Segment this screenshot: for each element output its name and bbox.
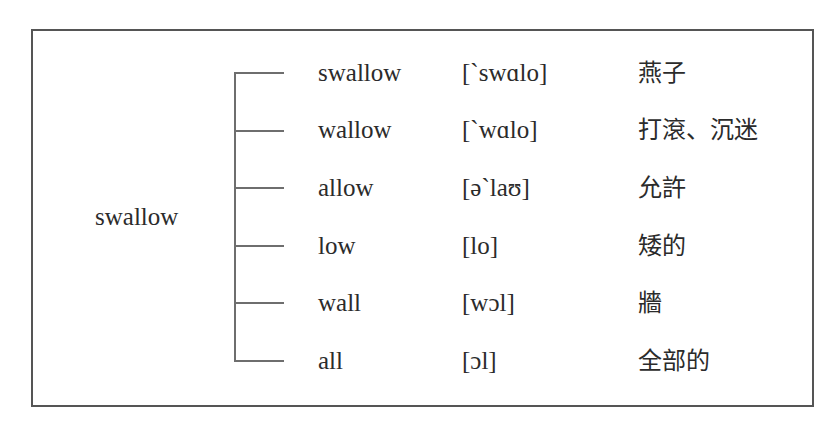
chinese-meaning: 允許 (638, 172, 686, 204)
derived-word: all (318, 345, 343, 377)
tree-branch-line (234, 360, 284, 362)
derived-word: low (318, 230, 356, 262)
chinese-meaning: 牆 (638, 287, 662, 319)
chinese-meaning: 打滾、沉迷 (638, 114, 758, 146)
derived-word: wall (318, 287, 361, 319)
root-word: swallow (95, 201, 178, 233)
phonetic-transcription: [ə`laʊ] (462, 172, 530, 204)
tree-branch-line (234, 72, 284, 74)
derived-word: allow (318, 172, 374, 204)
tree-branch-line (234, 187, 284, 189)
phonetic-transcription: [ɔl] (462, 345, 497, 377)
tree-branch-line (234, 130, 284, 132)
chinese-meaning: 矮的 (638, 230, 686, 262)
phonetic-transcription: [`wɑlo] (462, 114, 538, 146)
chinese-meaning: 全部的 (638, 345, 710, 377)
derived-word: swallow (318, 57, 401, 89)
tree-trunk-line (234, 73, 236, 362)
chinese-meaning: 燕子 (638, 57, 686, 89)
phonetic-transcription: [`swɑlo] (462, 57, 547, 89)
phonetic-transcription: [wɔl] (462, 287, 515, 319)
phonetic-transcription: [lo] (462, 230, 498, 262)
tree-branch-line (234, 245, 284, 247)
derived-word: wallow (318, 114, 392, 146)
tree-branch-line (234, 302, 284, 304)
